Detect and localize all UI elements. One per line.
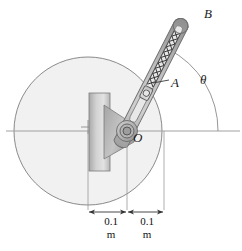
figure-canvas [0,0,242,251]
dimension-unit-right: m [130,229,164,241]
label-point-b: B [204,7,212,20]
label-pivot-o: O [133,131,142,144]
dimension-label-left: 0.1 m [94,216,128,240]
mechanics-figure: B A O θ 0.1 m 0.1 m [0,0,242,251]
dimension-unit-left: m [94,229,128,241]
dimension-value-right: 0.1 [140,215,154,227]
label-angle-theta: θ [200,73,206,86]
angle-arc [168,49,218,131]
dimension-value-left: 0.1 [104,215,118,227]
label-point-a: A [171,76,179,89]
dimension-label-right: 0.1 m [130,216,164,240]
